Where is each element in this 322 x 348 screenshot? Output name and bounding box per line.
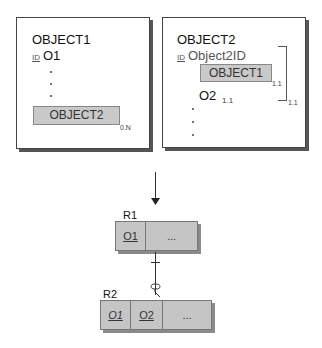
r2-label: R2 bbox=[103, 288, 117, 300]
crowfoot-icon bbox=[152, 289, 162, 297]
nested-object2-cardinality: 0.N bbox=[120, 124, 131, 131]
r1-col-rest: ... bbox=[146, 222, 197, 250]
group-cardinality: 1.1 bbox=[288, 99, 298, 106]
object2-attr-o2: O2 1.1 bbox=[199, 88, 231, 103]
object2-id-attr: Object2ID bbox=[188, 48, 246, 63]
r2-col-rest: ... bbox=[163, 301, 211, 329]
r1-label: R1 bbox=[123, 209, 137, 221]
id-tag: ID bbox=[32, 53, 40, 62]
transform-arrow-line bbox=[155, 172, 156, 200]
ellipsis-dot bbox=[192, 134, 194, 136]
one-mark bbox=[151, 262, 160, 263]
id-tag: ID bbox=[177, 53, 185, 62]
attr-label: O2 bbox=[199, 88, 216, 103]
object2-id-row: IDObject2ID bbox=[177, 48, 246, 63]
r2-col-o2: O2 bbox=[131, 301, 163, 329]
object1-id-row: IDO1 bbox=[32, 48, 60, 63]
object1-card: OBJECT1 IDO1 OBJECT2 0.N bbox=[16, 17, 150, 149]
ellipsis-dot bbox=[50, 95, 52, 97]
ellipsis-dot bbox=[192, 108, 194, 110]
relation-r1: O1 ... bbox=[115, 221, 198, 251]
object1-id-attr: O1 bbox=[43, 48, 60, 63]
r2-col-o1: O1 bbox=[101, 301, 131, 329]
attr-cardinality: 1.1 bbox=[222, 96, 233, 105]
r1-col-o1: O1 bbox=[116, 222, 146, 250]
object1-title: OBJECT1 bbox=[32, 32, 91, 47]
ellipsis-dot bbox=[50, 71, 52, 73]
ellipsis-dot bbox=[50, 83, 52, 85]
nested-object1: OBJECT1 bbox=[200, 64, 272, 82]
ellipsis-dot bbox=[192, 121, 194, 123]
nested-object2: OBJECT2 bbox=[33, 106, 120, 125]
group-bracket bbox=[278, 46, 287, 101]
arrow-down-icon bbox=[151, 198, 160, 206]
object2-card: OBJECT2 IDObject2ID OBJECT1 1.1 O2 1.1 1… bbox=[162, 17, 306, 148]
object2-title: OBJECT2 bbox=[177, 32, 236, 47]
relation-r2: O1 O2 ... bbox=[100, 300, 212, 330]
